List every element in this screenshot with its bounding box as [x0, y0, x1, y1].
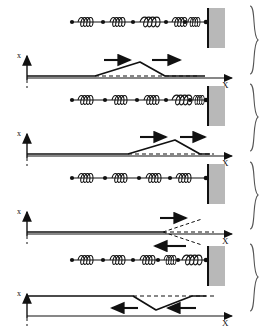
y-axis-label: x [17, 51, 21, 60]
spring-chain-row [70, 17, 208, 27]
bead [156, 258, 160, 262]
bead [103, 98, 107, 102]
bead [131, 20, 135, 24]
panel-pulse-incoming: x X [17, 6, 258, 90]
panel-brace [250, 162, 258, 229]
bead [188, 98, 192, 102]
y-axis-label: x [17, 289, 21, 298]
axis-group: x X [17, 207, 232, 246]
fixed-wall [207, 8, 225, 48]
panel-pulse-reflected-inverted: x X [17, 244, 258, 328]
bead [70, 176, 74, 180]
bead [137, 176, 141, 180]
fixed-wall [207, 86, 225, 126]
bead [164, 98, 168, 102]
bead [70, 20, 74, 24]
bead [103, 176, 107, 180]
panel-brace [250, 6, 258, 74]
fixed-wall [207, 246, 225, 286]
bead [168, 176, 172, 180]
y-axis-label: x [17, 129, 21, 138]
bead [101, 20, 105, 24]
panel-brace [250, 244, 258, 311]
bead [176, 258, 180, 262]
ghost-pulse-up [163, 219, 202, 232]
bead [101, 258, 105, 262]
spring-chain-row [70, 95, 208, 105]
panel-pulse-at-wall: x X [17, 162, 258, 246]
bead [70, 258, 74, 262]
bead [131, 258, 135, 262]
spring-chain-row [70, 174, 208, 183]
axis-group: x X [17, 51, 232, 90]
x-axis-label: X [222, 236, 229, 246]
bead [135, 98, 139, 102]
panel-brace [250, 84, 258, 151]
pulse-waveform [27, 140, 210, 154]
physics-diagram: x X [0, 0, 271, 329]
figure-canvas: x X [0, 0, 271, 329]
axis-group: x X [17, 129, 232, 168]
bead [164, 20, 168, 24]
spring-chain-row [70, 255, 208, 265]
panel-pulse-approaching-wall: x X [17, 84, 258, 168]
bead [70, 98, 74, 102]
pulse-waveform [27, 62, 205, 76]
fixed-wall [207, 164, 225, 204]
x-axis-label: X [222, 318, 229, 328]
y-axis-label: x [17, 207, 21, 216]
bead [183, 20, 187, 24]
